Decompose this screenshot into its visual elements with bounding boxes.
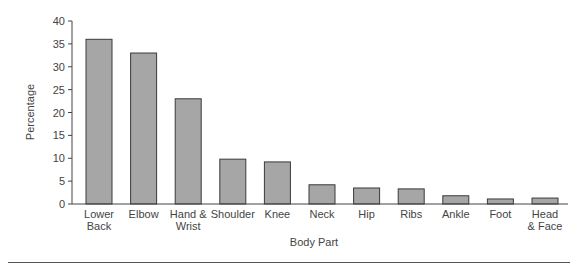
y-tick-label: 20 — [53, 107, 65, 119]
bar-hand-wrist — [175, 99, 201, 204]
x-category-label: Hand &Wrist — [170, 208, 207, 232]
y-tick-label: 35 — [53, 38, 65, 50]
y-tick-label: 25 — [53, 84, 65, 96]
x-category-label: Neck — [309, 208, 335, 220]
y-axis: 0510152025303540 — [53, 15, 72, 210]
bar-knee — [264, 162, 290, 204]
y-tick-label: 10 — [53, 152, 65, 164]
x-category-label: Ankle — [442, 208, 470, 220]
x-axis: LowerBackElbowHand &WristShoulderKneeNec… — [72, 204, 568, 232]
bar-head-face — [532, 198, 558, 204]
bar-hip — [354, 188, 380, 204]
x-category-label: Hip — [358, 208, 375, 220]
x-category-label: LowerBack — [84, 208, 114, 232]
y-tick-label: 15 — [53, 129, 65, 141]
bar-shoulder — [220, 159, 246, 204]
bar-neck — [309, 185, 335, 204]
x-category-label: Foot — [489, 208, 511, 220]
y-tick-label: 40 — [53, 15, 65, 27]
x-category-label: Ribs — [400, 208, 423, 220]
bar-foot — [487, 199, 513, 204]
y-tick-label: 30 — [53, 61, 65, 73]
x-category-label: Elbow — [129, 208, 159, 220]
bar-ribs — [398, 189, 424, 204]
bars — [86, 39, 558, 204]
x-axis-title: Body Part — [290, 236, 338, 248]
bar-ankle — [443, 196, 469, 204]
x-category-label: Shoulder — [211, 208, 255, 220]
y-tick-label: 0 — [59, 198, 65, 210]
bar-elbow — [131, 53, 157, 204]
x-category-label: Head& Face — [528, 208, 563, 232]
divider-rule — [8, 262, 570, 263]
x-category-label: Knee — [265, 208, 291, 220]
y-axis-title: Percentage — [24, 84, 36, 140]
bar-chart: 0510152025303540 LowerBackElbowHand &Wri… — [0, 0, 580, 271]
y-tick-label: 5 — [59, 175, 65, 187]
bar-lower-back — [86, 39, 112, 204]
